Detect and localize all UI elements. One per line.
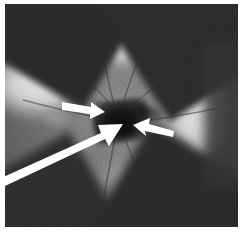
figure-root xyxy=(0,0,243,238)
annotation-arrow-overlay xyxy=(5,4,238,227)
plate-margin-top xyxy=(0,0,243,4)
arrow-long-lower-left-icon xyxy=(5,124,123,186)
plate-margin-bottom xyxy=(0,227,243,238)
fundus-photograph-plate xyxy=(5,4,238,227)
arrow-upper-left-icon xyxy=(62,102,105,119)
plate-margin-left xyxy=(0,0,5,238)
arrow-right-icon xyxy=(133,118,174,137)
plate-margin-right xyxy=(238,0,243,238)
